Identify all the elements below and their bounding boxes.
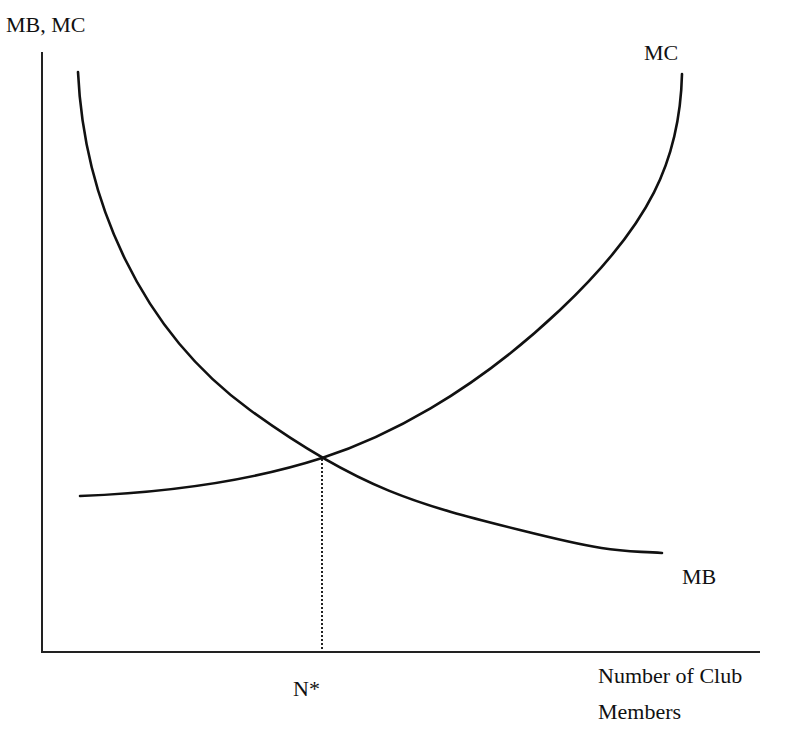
y-axis-label: MB, MC <box>6 12 85 38</box>
diagram-canvas <box>0 0 811 730</box>
mc-curve-label: MC <box>644 40 678 66</box>
equilibrium-label: N* <box>293 676 320 702</box>
x-axis-label-line1: Number of Club <box>598 658 808 694</box>
mb-curve-label: MB <box>682 564 716 590</box>
x-axis-label: Number of Club Members <box>598 658 808 730</box>
mb-curve <box>78 72 662 553</box>
x-axis-label-line2: Members <box>598 694 808 730</box>
mc-curve <box>80 74 682 496</box>
